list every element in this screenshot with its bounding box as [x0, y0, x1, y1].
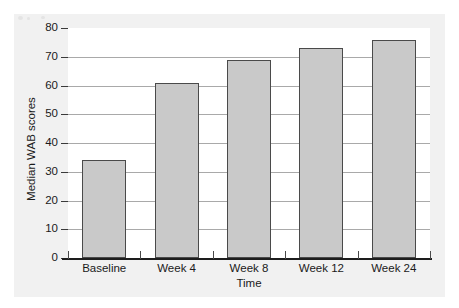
bar	[155, 83, 199, 258]
y-axis-tick-label: 20	[34, 195, 58, 207]
y-axis-tick	[61, 229, 68, 230]
x-axis-tick-label: Week 24	[358, 262, 430, 274]
y-axis-tick-label: 30	[34, 166, 58, 178]
bars-layer	[68, 28, 430, 258]
x-axis-category-tick	[358, 251, 359, 259]
x-axis-category-tick	[140, 251, 141, 259]
y-axis-tick	[61, 28, 68, 29]
x-axis-tick-label: Week 12	[285, 262, 357, 274]
y-axis-tick	[61, 143, 68, 144]
x-axis-category-tick	[213, 251, 214, 259]
x-axis-category-tick	[285, 251, 286, 259]
x-axis-title: Time	[68, 277, 430, 289]
y-axis-title: Median WAB scores	[25, 69, 37, 229]
y-axis-tick	[61, 114, 68, 115]
x-axis-category-tick	[68, 251, 69, 259]
y-axis-tick-label: 70	[34, 51, 58, 63]
y-axis-tick-label: 40	[34, 137, 58, 149]
plot-area	[68, 28, 430, 258]
bar	[299, 48, 343, 258]
y-axis-tick	[61, 57, 68, 58]
y-axis-tick-label: 0	[34, 252, 58, 264]
x-axis-category-tick	[430, 251, 431, 259]
bar	[82, 160, 126, 258]
y-axis-tick	[61, 201, 68, 202]
y-axis-tick	[61, 172, 68, 173]
x-axis-line	[62, 258, 432, 260]
y-axis-tick-label: 50	[34, 108, 58, 120]
x-axis-tick-label: Baseline	[68, 262, 140, 274]
bar	[372, 40, 416, 259]
x-axis-tick-label: Week 8	[213, 262, 285, 274]
bar-chart: 01020304050607080 Median WAB scores Base…	[0, 0, 459, 308]
bar	[227, 60, 271, 258]
y-axis-tick-label: 80	[34, 22, 58, 34]
y-axis-tick	[61, 86, 68, 87]
y-axis-tick-label: 10	[34, 223, 58, 235]
x-axis-tick-label: Week 4	[140, 262, 212, 274]
y-axis-tick-label: 60	[34, 80, 58, 92]
